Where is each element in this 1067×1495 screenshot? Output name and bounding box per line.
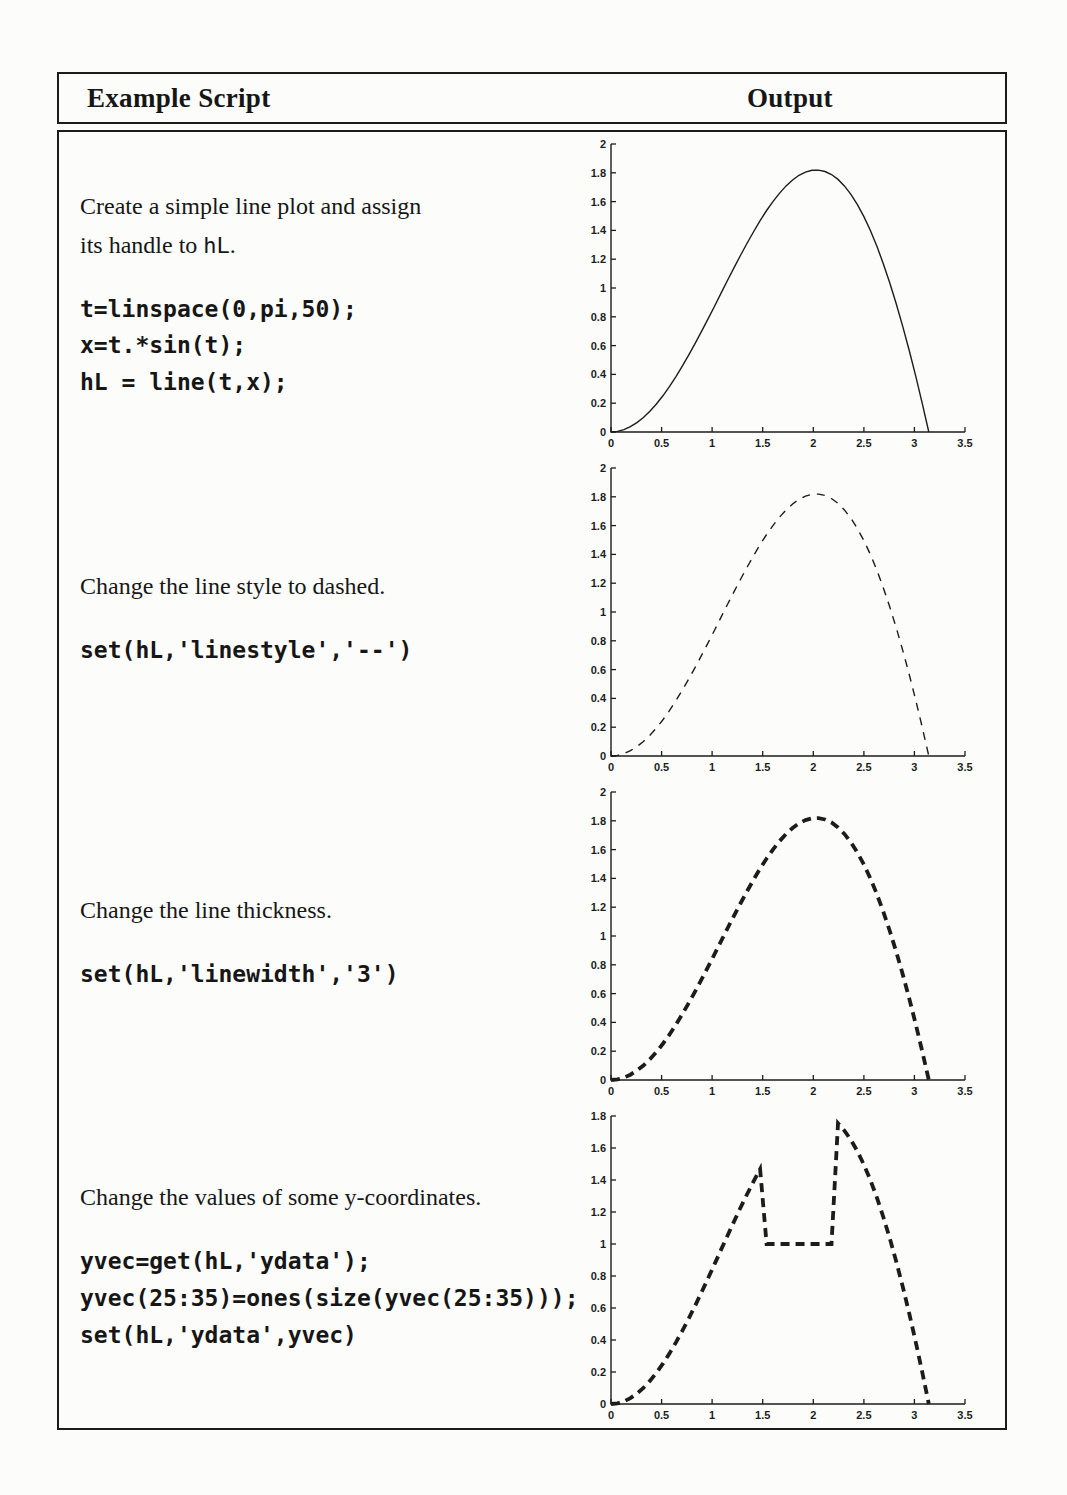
svg-text:0.5: 0.5 — [654, 437, 669, 449]
code-block-4: yvec=get(hL,'ydata'); yvec(25:35)=ones(s… — [80, 1243, 587, 1353]
svg-text:1.2: 1.2 — [591, 577, 606, 589]
code-line: yvec=get(hL,'ydata'); — [80, 1243, 587, 1280]
code-line: x=t.*sin(t); — [80, 327, 587, 364]
svg-text:0.8: 0.8 — [591, 635, 606, 647]
svg-text:0: 0 — [600, 750, 606, 762]
description-line1: Change the line thickness. — [80, 897, 332, 923]
svg-text:2: 2 — [810, 1085, 816, 1097]
svg-text:1: 1 — [600, 282, 606, 294]
description-line1: Create a simple line plot and assign — [80, 193, 421, 219]
svg-text:1: 1 — [709, 437, 715, 449]
svg-text:3: 3 — [911, 1085, 917, 1097]
code-block-3: set(hL,'linewidth','3') — [80, 956, 587, 993]
svg-text:1.4: 1.4 — [591, 548, 607, 560]
svg-text:0: 0 — [600, 1398, 606, 1410]
svg-text:1.2: 1.2 — [591, 1206, 606, 1218]
description-line1: Change the line style to dashed. — [80, 573, 385, 599]
svg-text:0: 0 — [600, 426, 606, 438]
line-chart: 00.20.40.60.811.21.41.61.8200.511.522.53… — [581, 458, 983, 780]
svg-text:0.8: 0.8 — [591, 311, 606, 323]
svg-text:3.5: 3.5 — [957, 1409, 972, 1421]
svg-text:3: 3 — [911, 761, 917, 773]
code-block-1: t=linspace(0,pi,50); x=t.*sin(t); hL = l… — [80, 291, 587, 401]
svg-text:1.4: 1.4 — [591, 224, 607, 236]
svg-text:1.6: 1.6 — [591, 196, 606, 208]
svg-text:2: 2 — [600, 786, 606, 798]
table-body: Create a simple line plot and assignits … — [57, 130, 1007, 1430]
line-chart: 00.20.40.60.811.21.41.61.8200.511.522.53… — [581, 134, 983, 456]
code-line: hL = line(t,x); — [80, 364, 587, 401]
svg-text:2: 2 — [810, 1409, 816, 1421]
description-text-4: Change the values of some y-coordinates. — [80, 1178, 587, 1217]
svg-text:1: 1 — [600, 1238, 606, 1250]
output-cell-2: 00.20.40.60.811.21.41.61.8200.511.522.53… — [587, 456, 1005, 780]
svg-text:1.5: 1.5 — [755, 761, 770, 773]
svg-text:0.6: 0.6 — [591, 1302, 606, 1314]
script-cell-3: Change the line thickness. set(hL,'linew… — [59, 780, 587, 1104]
svg-text:1.6: 1.6 — [591, 1142, 606, 1154]
example-row-2: Change the line style to dashed. set(hL,… — [59, 456, 1005, 780]
svg-text:1.5: 1.5 — [755, 437, 770, 449]
svg-text:2: 2 — [600, 138, 606, 150]
svg-text:1.6: 1.6 — [591, 520, 606, 532]
output-plot-4: 00.20.40.60.811.21.41.61.800.511.522.533… — [581, 1106, 983, 1428]
script-cell-1: Create a simple line plot and assignits … — [59, 132, 587, 456]
column-header-example-script: Example Script — [87, 83, 270, 114]
svg-text:0: 0 — [608, 1409, 614, 1421]
svg-text:1.2: 1.2 — [591, 901, 606, 913]
svg-text:2.5: 2.5 — [856, 1409, 871, 1421]
code-line: set(hL,'linestyle','--') — [80, 632, 587, 669]
svg-text:0.8: 0.8 — [591, 1270, 606, 1282]
line-chart: 00.20.40.60.811.21.41.61.800.511.522.533… — [581, 1106, 983, 1428]
description-line2: its handle to — [80, 232, 203, 258]
svg-text:2.5: 2.5 — [856, 437, 871, 449]
svg-text:1.8: 1.8 — [591, 815, 606, 827]
svg-text:0: 0 — [608, 761, 614, 773]
svg-text:0.6: 0.6 — [591, 340, 606, 352]
svg-text:0.5: 0.5 — [654, 1409, 669, 1421]
svg-text:0.5: 0.5 — [654, 761, 669, 773]
svg-text:1.4: 1.4 — [591, 872, 607, 884]
description-line1: Change the values of some y-coordinates. — [80, 1184, 481, 1210]
svg-text:3: 3 — [911, 437, 917, 449]
script-cell-4: Change the values of some y-coordinates.… — [59, 1104, 587, 1428]
svg-text:1.2: 1.2 — [591, 253, 606, 265]
svg-text:2: 2 — [600, 462, 606, 474]
svg-text:2.5: 2.5 — [856, 761, 871, 773]
svg-text:3.5: 3.5 — [957, 761, 972, 773]
svg-text:1.8: 1.8 — [591, 167, 606, 179]
svg-text:1: 1 — [709, 761, 715, 773]
svg-text:0.6: 0.6 — [591, 664, 606, 676]
description-text-2: Change the line style to dashed. — [80, 567, 587, 606]
svg-text:2.5: 2.5 — [856, 1085, 871, 1097]
output-cell-1: 00.20.40.60.811.21.41.61.8200.511.522.53… — [587, 132, 1005, 456]
column-header-output: Output — [747, 83, 833, 114]
svg-text:1.8: 1.8 — [591, 1110, 606, 1122]
svg-text:0.5: 0.5 — [654, 1085, 669, 1097]
svg-text:0.4: 0.4 — [591, 1016, 607, 1028]
inline-code-hL: hL — [203, 233, 230, 258]
svg-text:0.4: 0.4 — [591, 368, 607, 380]
svg-text:2: 2 — [810, 437, 816, 449]
svg-text:0.2: 0.2 — [591, 1366, 606, 1378]
svg-text:1: 1 — [709, 1409, 715, 1421]
description-line2-end: . — [230, 232, 236, 258]
output-plot-1: 00.20.40.60.811.21.41.61.8200.511.522.53… — [581, 134, 983, 456]
output-plot-3: 00.20.40.60.811.21.41.61.8200.511.522.53… — [581, 782, 983, 1104]
svg-text:3.5: 3.5 — [957, 437, 972, 449]
svg-text:0.4: 0.4 — [591, 692, 607, 704]
example-row-4: Change the values of some y-coordinates.… — [59, 1104, 1005, 1428]
svg-text:0: 0 — [608, 1085, 614, 1097]
svg-text:0.4: 0.4 — [591, 1334, 607, 1346]
line-chart: 00.20.40.60.811.21.41.61.8200.511.522.53… — [581, 782, 983, 1104]
code-line: yvec(25:35)=ones(size(yvec(25:35))); — [80, 1280, 587, 1317]
code-line: set(hL,'ydata',yvec) — [80, 1317, 587, 1354]
svg-text:2: 2 — [810, 761, 816, 773]
svg-text:1: 1 — [709, 1085, 715, 1097]
svg-text:1: 1 — [600, 930, 606, 942]
svg-text:3.5: 3.5 — [957, 1085, 972, 1097]
svg-text:0.6: 0.6 — [591, 988, 606, 1000]
svg-text:1.6: 1.6 — [591, 844, 606, 856]
code-line: t=linspace(0,pi,50); — [80, 291, 587, 328]
svg-text:1: 1 — [600, 606, 606, 618]
